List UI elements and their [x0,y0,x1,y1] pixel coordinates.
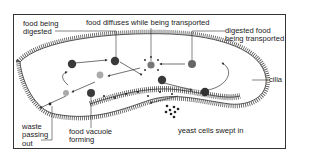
vacuole-2 [111,57,119,65]
vacuole-3 [147,61,154,68]
label-food-diffuses: food diffuses while being transported [86,19,210,27]
label-food-vacuole-forming: food vacuole forming [69,128,112,145]
label-cilia: cilia [269,76,282,84]
vacuole-8 [63,90,69,96]
vacuole-1 [68,60,76,68]
vacuole-4 [188,60,196,68]
label-yeast-cells-swept-in: yeast cells swept in [178,127,243,135]
vacuole-5 [158,76,166,84]
vacuole-7 [97,72,104,79]
vacuole-6 [201,88,209,96]
waste-particle [49,103,52,106]
cell-body [20,34,266,117]
label-food-being-digested: food being digested [23,20,58,37]
vacuole-forming [87,89,95,97]
label-digested-food-transported: digested food being transported [225,27,284,44]
label-waste-passing-out: waste passing out [22,123,48,148]
